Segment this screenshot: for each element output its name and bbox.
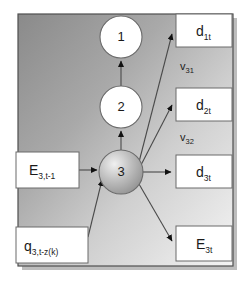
node-3[interactable]: 3 [99,150,143,194]
node-3-circle [99,150,143,194]
box-d1t[interactable]: d1t [176,14,232,47]
box-q3[interactable]: q3,t-z(k) [16,227,88,263]
diagram-container: 1 2 3 d1t d2t d3t [0,0,247,281]
node-2[interactable]: 2 [100,86,142,128]
box-d2t[interactable]: d2t [176,88,232,121]
box-e3t-minus-1[interactable]: E3,t-1 [16,152,79,188]
box-d1t-rect [176,14,232,47]
node-link-diagram: 1 2 3 d1t d2t d3t [0,0,247,281]
box-d3t[interactable]: d3t [176,155,232,188]
node-2-circle [100,86,142,128]
node-1-circle [100,16,142,58]
box-d2t-rect [176,88,232,121]
box-e3t[interactable]: E3t [176,226,232,261]
box-d3t-rect [176,155,232,188]
node-1[interactable]: 1 [100,16,142,58]
